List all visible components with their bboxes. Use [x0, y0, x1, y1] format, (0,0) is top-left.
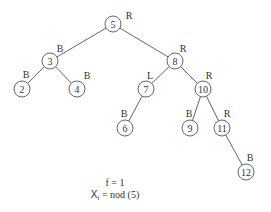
edge-3-4 — [56, 67, 72, 83]
node-tag: B — [23, 69, 30, 80]
node-label: 8 — [173, 56, 178, 67]
caption-line1-text: f = 1 — [106, 177, 125, 188]
tree-nodes: 5R3B8R2B4B7L10R6B9B11R12B — [14, 10, 254, 181]
tree-node-5: 5R — [105, 10, 133, 33]
edge-5-3 — [57, 28, 106, 57]
tree-node-11: 11R — [214, 108, 231, 137]
node-tag: B — [247, 152, 254, 163]
node-label: 12 — [241, 167, 251, 178]
node-label: 11 — [217, 123, 227, 134]
node-label: 6 — [123, 123, 128, 134]
edge-11-12 — [226, 135, 242, 165]
node-tag: B — [84, 70, 91, 81]
node-tag: B — [186, 108, 193, 119]
node-label: 3 — [48, 56, 53, 67]
edge-7-6 — [129, 96, 142, 121]
edge-5-8 — [120, 28, 168, 57]
tree-node-12: 12B — [238, 152, 254, 181]
node-label: 10 — [198, 84, 208, 95]
node-tag: R — [126, 10, 133, 21]
tree-node-6: 6B — [117, 108, 133, 137]
node-label: 4 — [75, 84, 80, 95]
edge-10-9 — [193, 97, 201, 121]
edge-8-10 — [181, 67, 198, 84]
node-label: 9 — [188, 123, 193, 134]
node-tag: B — [121, 108, 128, 119]
edge-3-2 — [28, 67, 45, 84]
node-label: 7 — [144, 84, 149, 95]
caption-xf-value: Xf = nod (5) — [60, 189, 170, 204]
node-tag: R — [206, 70, 213, 81]
tree-node-8: 8R — [167, 43, 187, 70]
tree-node-4: 4B — [69, 70, 91, 98]
node-tag: R — [180, 43, 187, 54]
caption-line2-text: = nod (5) — [99, 189, 139, 200]
node-tag: L — [147, 70, 153, 81]
edge-10-11 — [207, 96, 219, 121]
edge-8-7 — [152, 67, 169, 84]
caption-f-value: f = 1 — [60, 177, 170, 189]
node-tag: R — [224, 108, 231, 119]
tree-node-2: 2B — [14, 69, 30, 98]
tree-node-7: 7L — [138, 70, 154, 98]
node-label: 2 — [20, 84, 25, 95]
tree-node-3: 3B — [42, 43, 64, 70]
tree-node-10: 10R — [195, 70, 213, 98]
node-tag: B — [57, 43, 64, 54]
node-label: 5 — [111, 19, 116, 30]
